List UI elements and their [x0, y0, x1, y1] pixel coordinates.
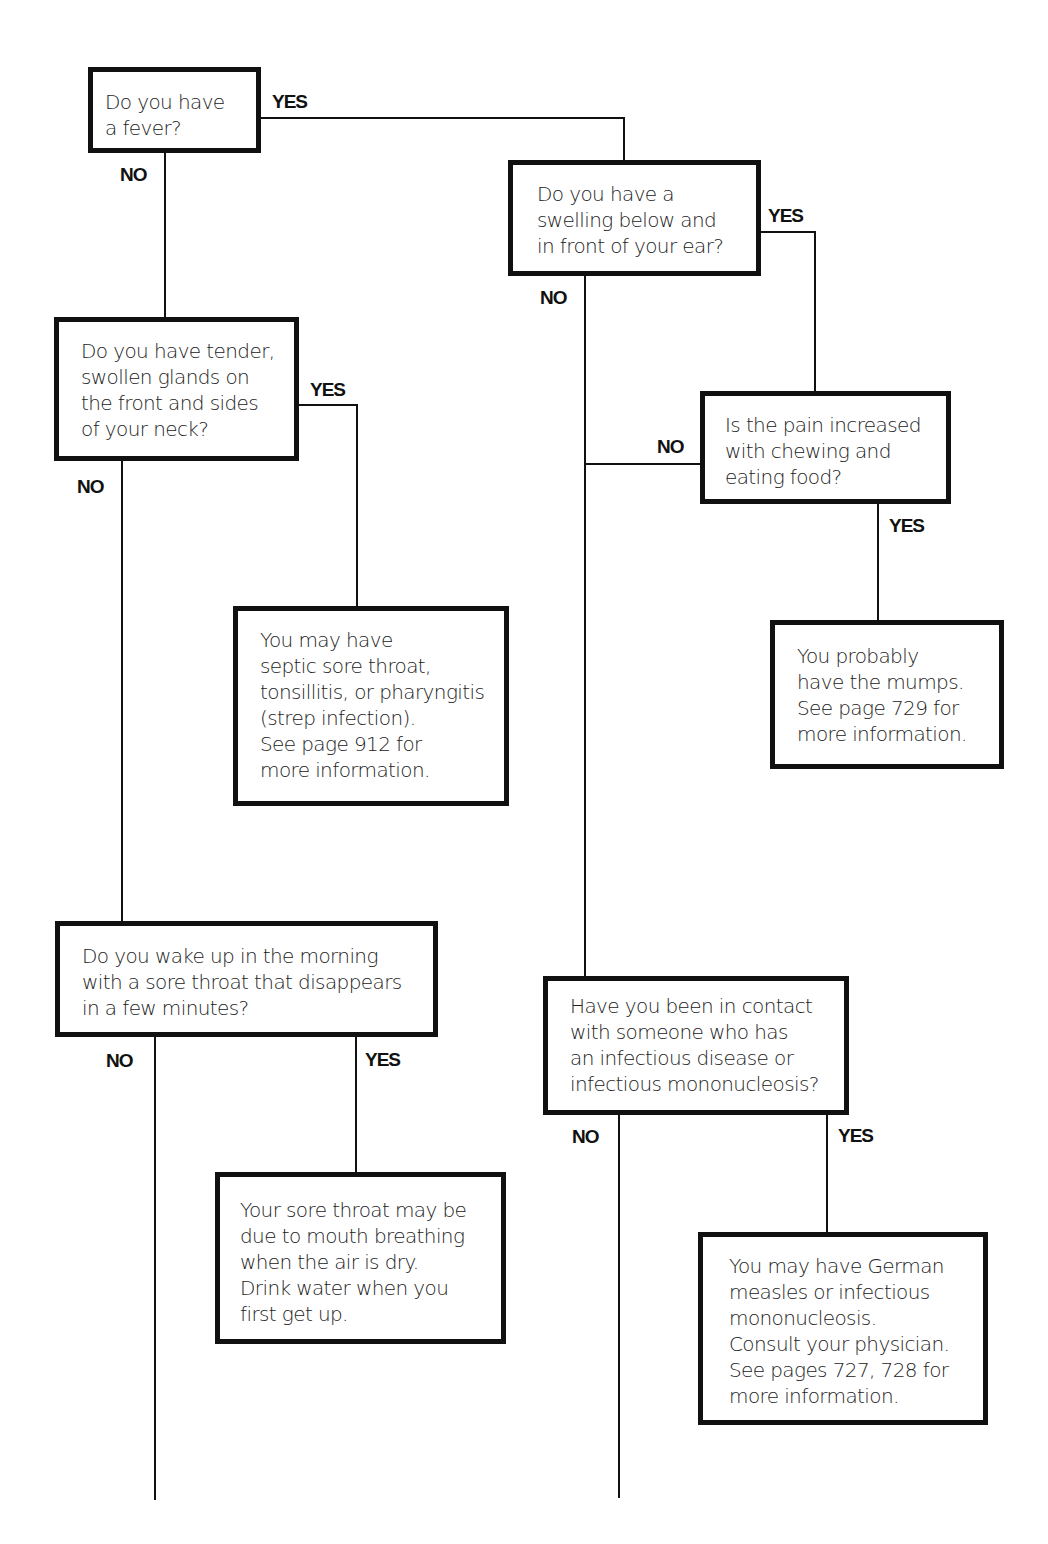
result-measles-mono: You may have German measles or infectiou… — [698, 1232, 988, 1425]
label-swelling-no: NO — [540, 287, 567, 309]
label-glands-yes: YES — [310, 379, 345, 401]
result-strep: You may have septic sore throat, tonsill… — [233, 606, 509, 806]
label-morning-yes: YES — [365, 1049, 400, 1071]
label-chewing-yes: YES — [889, 515, 924, 537]
result-mouth-breathing-text: Your sore throat may be due to mouth bre… — [240, 1197, 501, 1327]
label-contact-no: NO — [572, 1126, 599, 1148]
question-morning-text: Do you wake up in the morning with a sor… — [82, 943, 433, 1021]
question-glands: Do you have tender, swollen glands on th… — [54, 317, 299, 461]
label-chewing-no: NO — [657, 436, 684, 458]
edge-fever-yes — [260, 118, 624, 160]
label-morning-no: NO — [106, 1050, 133, 1072]
question-morning: Do you wake up in the morning with a sor… — [55, 921, 438, 1037]
question-contact-text: Have you been in contact with someone wh… — [570, 993, 844, 1097]
question-fever-text: Do you have a fever? — [105, 89, 256, 141]
result-mumps: You probably have the mumps. See page 72… — [770, 620, 1004, 769]
label-glands-no: NO — [77, 476, 104, 498]
edge-glands-yes — [298, 405, 357, 606]
label-fever-no: NO — [120, 164, 147, 186]
label-contact-yes: YES — [838, 1125, 873, 1147]
edge-swelling-yes — [760, 232, 815, 391]
result-mumps-text: You probably have the mumps. See page 72… — [797, 643, 999, 747]
question-fever: Do you have a fever? — [88, 67, 261, 153]
result-measles-mono-text: You may have German measles or infectiou… — [729, 1253, 983, 1409]
result-strep-text: You may have septic sore throat, tonsill… — [260, 627, 504, 783]
question-glands-text: Do you have tender, swollen glands on th… — [81, 338, 294, 442]
question-chewing-text: Is the pain increased with chewing and e… — [725, 412, 946, 490]
question-chewing: Is the pain increased with chewing and e… — [700, 391, 951, 504]
result-mouth-breathing: Your sore throat may be due to mouth bre… — [215, 1172, 506, 1344]
label-fever-yes: YES — [272, 91, 307, 113]
label-swelling-yes: YES — [768, 205, 803, 227]
question-swelling-text: Do you have a swelling below and in fron… — [537, 181, 756, 259]
question-swelling: Do you have a swelling below and in fron… — [508, 160, 761, 276]
question-contact: Have you been in contact with someone wh… — [543, 976, 849, 1115]
